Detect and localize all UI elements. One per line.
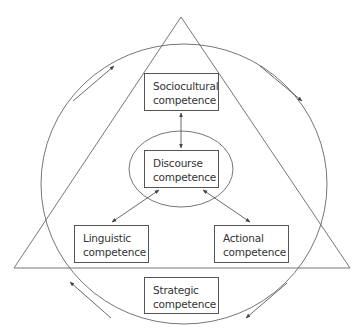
- node-label-line2: competence: [223, 245, 288, 259]
- arrow-discourse-linguistic: [112, 190, 159, 222]
- rotation-arrow-top-left: [73, 66, 114, 101]
- triangle: [14, 17, 350, 268]
- node-label-line2: competence: [153, 170, 218, 184]
- node-sociocultural: Sociocultural competence: [144, 73, 219, 111]
- rotation-arrow-bottom-right: [246, 283, 287, 318]
- node-label-line1: Discourse: [153, 156, 218, 170]
- rotation-arrow-top-right: [260, 66, 302, 101]
- node-actional: Actional competence: [214, 225, 289, 263]
- node-label-line2: competence: [153, 297, 218, 311]
- rotation-arrow-bottom-left: [70, 282, 111, 318]
- node-label-line1: Linguistic: [83, 231, 148, 245]
- node-label-line1: Sociocultural: [153, 79, 218, 93]
- node-label-line2: competence: [153, 93, 218, 107]
- node-label-line1: Actional: [223, 231, 288, 245]
- node-strategic: Strategic competence: [144, 277, 219, 314]
- node-label-line1: Strategic: [153, 283, 218, 297]
- arrow-discourse-actional: [203, 190, 250, 222]
- node-label-line2: competence: [83, 245, 148, 259]
- node-linguistic: Linguistic competence: [74, 225, 149, 263]
- node-discourse: Discourse competence: [144, 150, 219, 188]
